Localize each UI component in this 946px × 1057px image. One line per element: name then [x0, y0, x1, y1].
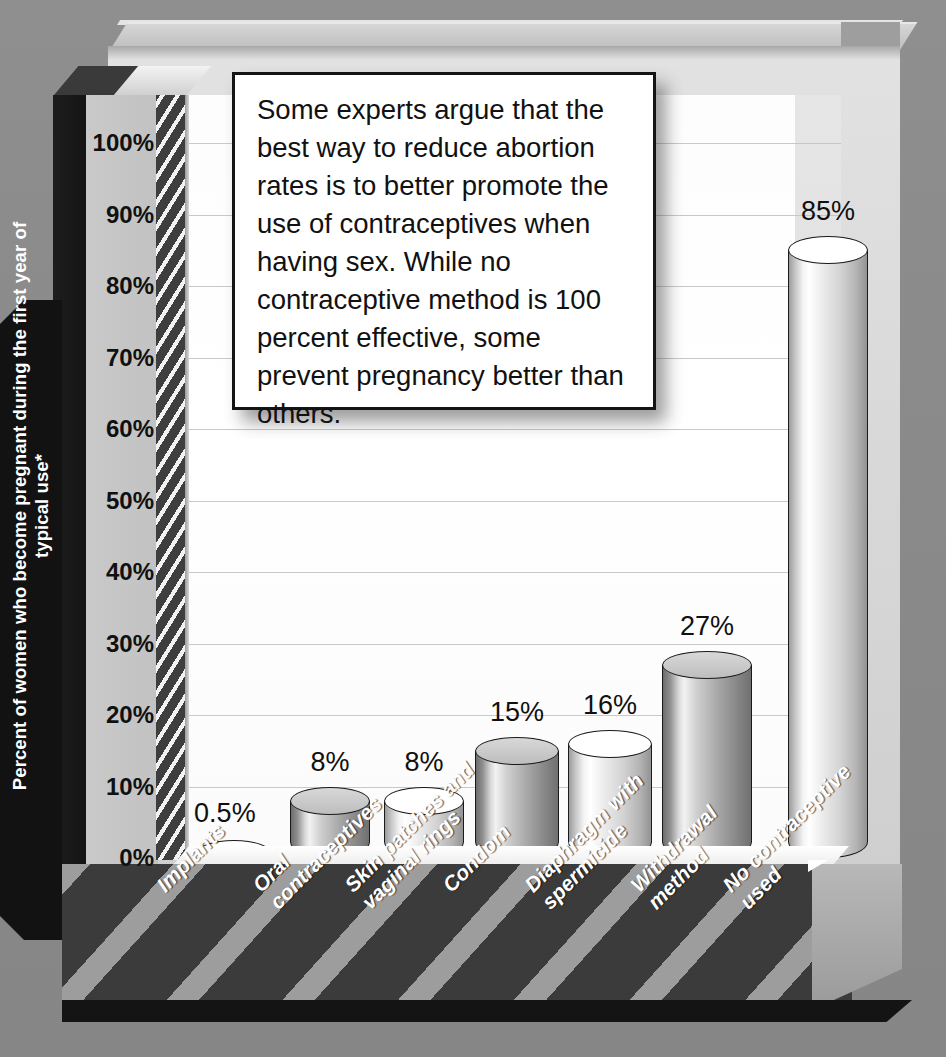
y-tick-label: 60%: [86, 415, 158, 443]
y-axis-tick-hatch: [156, 95, 188, 860]
bar-top-ellipse: [475, 737, 559, 765]
back-wall-shadow: [108, 46, 900, 60]
y-tick-label: 50%: [86, 487, 158, 515]
gridline: [189, 572, 795, 573]
gridline-right: [795, 143, 841, 144]
callout-textbox: Some experts argue that the best way to …: [232, 72, 656, 410]
y-tick-label: 10%: [86, 773, 158, 801]
bar-value-label: 27%: [680, 611, 734, 642]
bar-chart-3d: 0.5%8%8%15%16%27%85% ImplantsOral contra…: [0, 0, 946, 1057]
bar-value-label: 8%: [404, 747, 443, 778]
bar-top-ellipse: [662, 651, 752, 679]
plinth-bottom-shadow: [62, 1000, 912, 1022]
bar-value-label: 15%: [490, 697, 544, 728]
gridline: [189, 501, 795, 502]
plinth-right-face: [812, 864, 902, 1010]
y-tick-label: 80%: [86, 272, 158, 300]
y-tick-label: 100%: [86, 129, 158, 157]
gridline: [189, 644, 795, 645]
bar-top-ellipse: [568, 730, 652, 758]
y-tick-label: 30%: [86, 630, 158, 658]
bar-value-label: 16%: [583, 690, 637, 721]
y-tick-label: 70%: [86, 344, 158, 372]
bar-body: [788, 250, 868, 858]
y-tick-label: 90%: [86, 201, 158, 229]
y-tick-label: 0%: [86, 844, 158, 872]
bar-6: 85%: [788, 236, 868, 858]
bar-value-label: 85%: [801, 196, 855, 227]
y-tick-label: 40%: [86, 558, 158, 586]
right-wall-top: [841, 22, 900, 48]
y-tick-label: 20%: [86, 701, 158, 729]
bar-value-label: 8%: [310, 747, 349, 778]
y-axis-tick-layer: 100%90%80%70%60%50%40%30%20%10%0%: [86, 0, 158, 1057]
bar-value-label: 0.5%: [194, 798, 256, 829]
y-axis-title: Percent of women who become pregnant dur…: [0, 196, 62, 816]
